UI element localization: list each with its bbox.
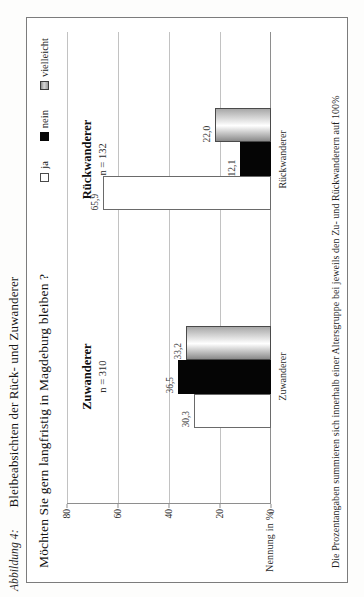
bar-value-rueckwanderer-vielleicht: 22,0 bbox=[202, 126, 212, 143]
legend-item-ja: ja bbox=[39, 161, 50, 182]
black-square-icon bbox=[40, 132, 49, 141]
bar-zuwanderer-nein[interactable]: 36,5 bbox=[178, 360, 271, 394]
chart-footnote: Die Prozentangaben summieren sich innerh… bbox=[330, 30, 341, 568]
rotated-page-wrapper: Abbildung 4: Bleibeabsichten der Rück- u… bbox=[0, 0, 364, 597]
figure-caption: Abbildung 4: Bleibeabsichten der Rück- u… bbox=[6, 6, 26, 591]
chart-legend: ja nein vielleicht bbox=[39, 34, 50, 182]
chart-plot-area: Nennung in % 80 60 40 20 0 bbox=[61, 16, 311, 582]
bar-zuwanderer-ja[interactable]: 30,3 bbox=[194, 394, 271, 428]
figure-page: Abbildung 4: Bleibeabsichten der Rück- u… bbox=[0, 0, 364, 597]
y-axis-title: Nennung in % bbox=[264, 512, 275, 572]
y-tick-0: 0 bbox=[266, 509, 276, 514]
x-label-rueckwanderer: Rückwanderer bbox=[277, 130, 288, 188]
y-tick-80: 80 bbox=[62, 509, 72, 519]
bar-zuwanderer-vielleicht[interactable]: 33,2 bbox=[186, 326, 271, 360]
bar-group-rueckwanderer: 65,9 12,1 22,0 Rückwanderer bbox=[67, 98, 271, 221]
bar-value-zuwanderer-vielleicht: 33,2 bbox=[173, 343, 183, 360]
bar-value-rueckwanderer-ja: 65,9 bbox=[90, 194, 100, 211]
bar-value-rueckwanderer-nein: 12,1 bbox=[227, 160, 237, 177]
chart-header: Möchten Sie gern langfristig in Magdebur… bbox=[27, 18, 61, 582]
figure-frame: Möchten Sie gern langfristig in Magdebur… bbox=[26, 17, 348, 583]
legend-label-vielleicht: vielleicht bbox=[39, 38, 50, 77]
x-label-zuwanderer: Zuwanderer bbox=[277, 352, 288, 400]
legend-item-nein: nein bbox=[39, 110, 50, 141]
bar-rueckwanderer-vielleicht[interactable]: 22,0 bbox=[215, 108, 271, 142]
bar-rueckwanderer-ja[interactable]: 65,9 bbox=[103, 176, 271, 210]
legend-label-nein: nein bbox=[39, 110, 50, 128]
y-tick-40: 40 bbox=[164, 509, 174, 519]
legend-label-ja: ja bbox=[39, 161, 50, 169]
white-square-icon bbox=[40, 173, 49, 182]
bar-group-zuwanderer: 30,3 36,5 33,2 Zuwanderer bbox=[67, 315, 271, 438]
figure-number: Abbildung 4: bbox=[8, 529, 20, 591]
bar-value-zuwanderer-nein: 36,5 bbox=[165, 377, 175, 394]
legend-item-vielleicht: vielleicht bbox=[39, 38, 50, 90]
bar-value-zuwanderer-ja: 30,3 bbox=[181, 411, 191, 428]
chart-canvas: 80 60 40 20 0 Zuwanderer n = 310 Rückwan… bbox=[67, 32, 271, 504]
y-tick-60: 60 bbox=[113, 509, 123, 519]
chart-question: Möchten Sie gern langfristig in Magdebur… bbox=[36, 274, 52, 568]
bar-rueckwanderer-nein[interactable]: 12,1 bbox=[240, 142, 271, 176]
gray-gradient-square-icon bbox=[40, 81, 49, 90]
figure-title: Bleibeabsichten der Rück- und Zuwanderer bbox=[6, 277, 22, 508]
y-tick-20: 20 bbox=[215, 509, 225, 519]
